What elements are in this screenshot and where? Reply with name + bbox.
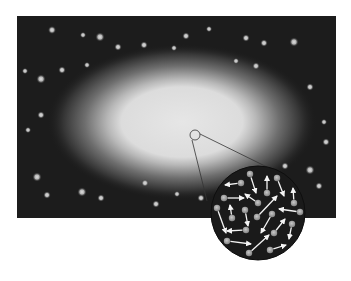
particle-dot (214, 205, 220, 211)
star-dot (114, 43, 122, 51)
star-dot (252, 62, 260, 70)
star-dot (77, 187, 87, 197)
particle-dot (229, 215, 235, 221)
star-dot (281, 162, 289, 170)
star-dot (97, 194, 105, 202)
star-dot (32, 172, 42, 182)
particle-dot (254, 214, 260, 220)
particle-dot (243, 227, 249, 233)
particle-dot (224, 238, 230, 244)
star-dot (141, 179, 149, 187)
star-dot (25, 127, 31, 133)
star-dot (43, 191, 51, 199)
star-dot (289, 37, 299, 47)
velocity-arrow-icon (293, 188, 294, 200)
magnified-inset (211, 166, 305, 260)
star-dot (197, 194, 205, 202)
gas-cloud-diagram (0, 0, 351, 281)
star-dot (140, 41, 148, 49)
particle-dot (247, 171, 253, 177)
inset-circle (211, 166, 305, 260)
star-dot (22, 68, 28, 74)
particle-dot (269, 211, 275, 217)
star-dot (305, 165, 315, 175)
particle-dot (242, 207, 248, 213)
particle-dot (289, 221, 295, 227)
particle-dot (271, 230, 277, 236)
star-dot (242, 34, 250, 42)
particle-dot (246, 250, 252, 256)
star-dot (315, 182, 323, 190)
star-dot (260, 39, 268, 47)
star-dot (37, 111, 45, 119)
particle-dot (264, 190, 270, 196)
star-dot (182, 32, 190, 40)
particle-dot (274, 175, 280, 181)
particle-dot (297, 209, 303, 215)
star-dot (48, 26, 56, 34)
star-dot (84, 62, 90, 68)
particle-dot (238, 180, 244, 186)
particle-dot (291, 200, 297, 206)
particle-dot (255, 200, 261, 206)
star-dot (306, 83, 314, 91)
star-dot (80, 32, 86, 38)
star-dot (174, 191, 180, 197)
star-dot (36, 74, 46, 84)
star-dot (321, 119, 327, 125)
star-dot (233, 58, 239, 64)
particle-dot (221, 195, 227, 201)
velocity-arrow-icon (227, 230, 243, 231)
star-dot (152, 200, 160, 208)
star-dot (206, 26, 212, 32)
star-dot (95, 32, 105, 42)
star-dot (322, 138, 330, 146)
particle-dot (267, 247, 273, 253)
star-dot (58, 66, 66, 74)
star-dot (171, 45, 177, 51)
